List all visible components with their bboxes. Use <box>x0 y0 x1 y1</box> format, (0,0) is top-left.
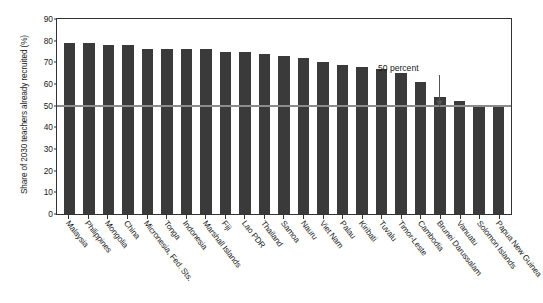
y-axis-tick-label: 60 <box>31 79 53 89</box>
x-axis-label-slot: Papua New Guinea <box>489 219 509 303</box>
bar-slot <box>235 19 254 214</box>
bar-slot <box>430 19 449 214</box>
x-axis-label-slot: Philippines <box>79 219 99 303</box>
x-axis-label-slot: Micronesia, Fed. Sts. <box>137 219 157 303</box>
bar[interactable] <box>454 101 466 214</box>
bar[interactable] <box>356 67 368 214</box>
x-axis-category-label: Fiji <box>220 219 233 232</box>
bar-slot <box>274 19 293 214</box>
bar[interactable] <box>298 58 310 214</box>
x-axis-label-slot: Malaysia <box>59 219 79 303</box>
bar-slot <box>196 19 215 214</box>
bar[interactable] <box>122 45 134 214</box>
bar-series <box>57 19 511 214</box>
bar-slot <box>333 19 352 214</box>
x-axis-label-slot: Solomon Islands <box>470 219 490 303</box>
x-axis-label-slot: Lao PDR <box>235 219 255 303</box>
annotation-label-50-percent: 50 percent <box>378 63 419 73</box>
x-axis-label-slot: Marshall Islands <box>196 219 216 303</box>
x-axis-label-slot: Cambodia <box>411 219 431 303</box>
x-axis-label-slot: Fiji <box>216 219 236 303</box>
y-axis-tick-label: 0 <box>31 209 53 219</box>
bar[interactable] <box>473 106 485 214</box>
bar[interactable] <box>142 49 154 214</box>
bar[interactable] <box>83 43 95 214</box>
x-axis-label-slot: China <box>118 219 138 303</box>
bar-slot <box>255 19 274 214</box>
bar-slot <box>216 19 235 214</box>
bar[interactable] <box>64 43 76 214</box>
bar[interactable] <box>239 52 251 215</box>
x-axis-label-slot: Nauru <box>294 219 314 303</box>
y-axis-tick-label: 70 <box>31 57 53 67</box>
bar-slot <box>450 19 469 214</box>
x-axis-label-slot: Palau <box>333 219 353 303</box>
bar[interactable] <box>103 45 115 214</box>
x-axis-label-slot: Vanuatu <box>450 219 470 303</box>
bar[interactable] <box>259 54 271 214</box>
bar[interactable] <box>395 73 407 214</box>
x-axis-label-slot: Mongolia <box>98 219 118 303</box>
y-axis-tick-label: 80 <box>31 36 53 46</box>
y-axis-tick-label: 90 <box>31 14 53 24</box>
y-axis-tick-label: 10 <box>31 187 53 197</box>
bar-slot <box>391 19 410 214</box>
bar-slot <box>157 19 176 214</box>
bar-slot <box>411 19 430 214</box>
bar[interactable] <box>317 62 329 214</box>
y-axis-tick-label: 20 <box>31 166 53 176</box>
bar-slot <box>313 19 332 214</box>
y-axis-title: Share of 2030 teachers already recruited… <box>20 5 29 225</box>
annotation-arrow-icon <box>435 75 444 107</box>
x-axis-label-slot: Brunei Darussalam <box>431 219 451 303</box>
bar[interactable] <box>220 52 232 215</box>
x-axis-label-slot: Thailand <box>255 219 275 303</box>
bar-slot <box>372 19 391 214</box>
bar[interactable] <box>200 49 212 214</box>
y-axis-tick-label: 50 <box>31 101 53 111</box>
bar-slot <box>60 19 79 214</box>
x-axis-label-slot: Timor-Leste <box>392 219 412 303</box>
x-axis-label-slot: Tuvalu <box>372 219 392 303</box>
bar[interactable] <box>337 65 349 215</box>
bar-slot <box>177 19 196 214</box>
bar[interactable] <box>181 49 193 214</box>
x-axis-label-slot: Samoa <box>274 219 294 303</box>
x-axis-label-slot: Viet Nam <box>313 219 333 303</box>
x-axis-category-labels: MalaysiaPhilippinesMongoliaChinaMicrones… <box>56 219 512 303</box>
bar[interactable] <box>493 106 505 214</box>
plot-area: 0102030405060708090 <box>56 18 512 215</box>
bar-slot <box>138 19 157 214</box>
bar[interactable] <box>376 69 388 214</box>
x-axis-label-slot: Tonga <box>157 219 177 303</box>
bar-slot <box>99 19 118 214</box>
bar-slot <box>352 19 371 214</box>
x-axis-category-label: Papua New Guinea <box>494 219 543 279</box>
y-axis-tick-label: 30 <box>31 144 53 154</box>
y-axis-tick-label: 40 <box>31 122 53 132</box>
x-axis-label-slot: Kiribati <box>352 219 372 303</box>
bar[interactable] <box>161 49 173 214</box>
bar[interactable] <box>434 97 446 214</box>
bar-slot <box>118 19 137 214</box>
x-axis-label-slot: Indonesia <box>176 219 196 303</box>
bar[interactable] <box>415 82 427 214</box>
bar-slot <box>469 19 488 214</box>
bar[interactable] <box>278 56 290 214</box>
bar-slot <box>79 19 98 214</box>
bar-slot <box>294 19 313 214</box>
bar-slot <box>489 19 508 214</box>
